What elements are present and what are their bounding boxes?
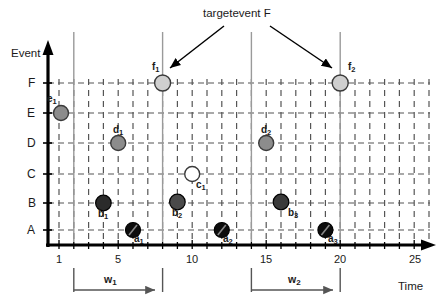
x-tick-label-15: 15 (260, 254, 272, 265)
x-tick-label-20: 20 (334, 254, 346, 265)
data-label-a2: a2 (223, 234, 233, 244)
y-axis-title: Event (11, 48, 40, 60)
data-label-c1-sub: 1 (202, 183, 206, 192)
figure-canvas: targetevent F Event Time F E D C B A 1 5… (0, 0, 443, 306)
data-label-a3: a3 (328, 234, 338, 244)
annotation-title: targetevent F (203, 8, 271, 20)
data-label-d1: d1 (113, 125, 123, 135)
data-label-e1: e1 (47, 94, 57, 104)
x-axis-title: Time (398, 281, 423, 293)
x-tick-label-1: 1 (56, 254, 62, 265)
data-point-e1[interactable] (54, 106, 69, 121)
data-label-f2-sub: 2 (351, 65, 355, 74)
data-label-e1-name: e (47, 93, 53, 104)
x-tick-label-25: 25 (409, 254, 421, 265)
window-label-w2-sub: 2 (296, 278, 300, 287)
arrow-to-f2 (270, 26, 332, 68)
data-point-d1[interactable] (111, 136, 126, 151)
data-label-c1-name: c (196, 179, 202, 190)
window-label-w1-sub: 1 (112, 278, 116, 287)
data-label-f1-sub: 1 (155, 65, 159, 74)
data-label-a1-sub: 1 (140, 237, 144, 246)
data-label-a2-sub: 2 (229, 237, 233, 246)
data-label-b1-sub: 1 (104, 212, 108, 221)
y-tick-label-b: B (28, 197, 36, 209)
data-label-e1-sub: 1 (53, 97, 57, 106)
data-label-a1-name: a (134, 233, 140, 244)
data-label-b3-sub: 3 (294, 211, 298, 220)
data-label-c1: c1 (196, 180, 206, 190)
data-point-d2[interactable] (259, 136, 274, 151)
window-bracket-w1 (74, 268, 163, 292)
data-label-b1: b1 (98, 209, 108, 219)
window-label-w2-text: w (288, 273, 296, 285)
data-label-b2: b2 (172, 208, 182, 218)
data-label-a2-name: a (223, 233, 229, 244)
data-label-a3-sub: 3 (334, 237, 338, 246)
data-point-b3[interactable] (273, 194, 289, 210)
arrow-to-f1 (170, 26, 224, 68)
window-label-w2: w2 (288, 274, 301, 285)
x-tick-label-10: 10 (186, 254, 198, 265)
data-point-f1[interactable] (155, 75, 171, 91)
data-label-d1-sub: 1 (119, 128, 123, 137)
x-axis (46, 240, 436, 251)
data-label-f2: f2 (348, 62, 356, 72)
data-label-d2: d2 (261, 125, 271, 135)
data-label-b3: b3 (288, 208, 298, 218)
data-label-a3-name: a (328, 233, 334, 244)
window-label-w1-text: w (104, 273, 112, 285)
y-tick-label-a: A (27, 224, 35, 236)
y-tick-label-f: F (28, 77, 35, 89)
y-tick-label-e: E (27, 107, 35, 119)
data-label-f1: f1 (152, 62, 160, 72)
x-tick-label-5: 5 (115, 254, 121, 265)
data-label-b2-sub: 2 (178, 211, 182, 220)
diagram-svg (0, 0, 443, 306)
data-point-f2[interactable] (332, 75, 348, 91)
window-label-w1: w1 (104, 274, 117, 285)
y-tick-label-c: C (27, 168, 36, 180)
data-label-d2-sub: 2 (267, 128, 271, 137)
data-label-a1: a1 (134, 234, 144, 244)
y-tick-label-d: D (27, 137, 36, 149)
